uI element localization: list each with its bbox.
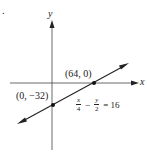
eq-den-1: 4 [77, 105, 81, 113]
x-axis-arrow-icon [131, 81, 139, 86]
eq-num-2: y [94, 96, 99, 105]
line-arrow-left-icon [17, 118, 27, 125]
eq-den-2: 2 [95, 105, 99, 113]
point-y-intercept [51, 103, 55, 107]
equation-label: x 4 − y 2 = 16 [76, 96, 120, 113]
x-axis-label: x [140, 76, 144, 87]
eq-rhs: = 16 [103, 100, 119, 110]
point-label-x-intercept: (64, 0) [65, 68, 92, 79]
y-axis-label: y [48, 8, 52, 19]
y-axis-arrow-icon [50, 20, 55, 28]
point-x-intercept [92, 81, 96, 85]
eq-op: − [85, 100, 90, 110]
eq-num-1: x [76, 96, 81, 105]
point-label-y-intercept: (0, −32) [16, 90, 48, 101]
